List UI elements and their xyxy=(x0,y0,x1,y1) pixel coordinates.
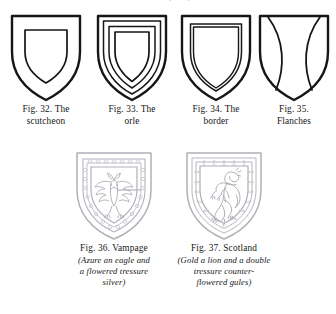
caption-line: orle xyxy=(84,116,180,128)
shield-scotland-lion-icon xyxy=(180,148,268,240)
shield-with-border-icon xyxy=(174,10,258,102)
clipped-header-text: · · · · ( · · ) xyxy=(0,0,336,1)
shield-with-inescutcheon-icon xyxy=(4,10,88,102)
caption-figure-37: Fig. 37. Scotland (Gold a lion and a dou… xyxy=(144,243,304,288)
caption-line: Fig. 32. The xyxy=(0,104,94,116)
heraldry-plate: · · · · ( · · ) xyxy=(0,0,336,314)
figure-36-vampage xyxy=(70,148,158,240)
caption-line: Fig. 33. The xyxy=(84,104,180,116)
caption-line: Flanches xyxy=(246,116,336,128)
figure-34-border xyxy=(174,10,258,102)
caption-line: Fig. 35. xyxy=(246,104,336,116)
bottom-figure-row xyxy=(0,148,336,240)
figure-35-flanches xyxy=(252,10,336,102)
caption-title: Fig. 37. Scotland xyxy=(144,243,304,255)
shield-vampage-eagle-icon xyxy=(70,148,158,240)
caption-figure-32: Fig. 32. The scutcheon xyxy=(0,104,94,127)
shield-with-flanches-icon xyxy=(252,10,336,102)
caption-figure-33: Fig. 33. The orle xyxy=(84,104,180,127)
blazon-line: flowered gules) xyxy=(144,277,304,288)
blazon-line: (Gold a lion and a double xyxy=(144,255,304,266)
caption-line: scutcheon xyxy=(0,116,94,128)
figure-37-scotland xyxy=(180,148,268,240)
figure-33-orle xyxy=(90,10,174,102)
top-figure-row xyxy=(0,10,336,102)
caption-figure-35: Fig. 35. Flanches xyxy=(246,104,336,127)
blazon-line: tressure counter- xyxy=(144,266,304,277)
figure-32-scutcheon xyxy=(4,10,88,102)
shield-with-orle-icon xyxy=(90,10,174,102)
